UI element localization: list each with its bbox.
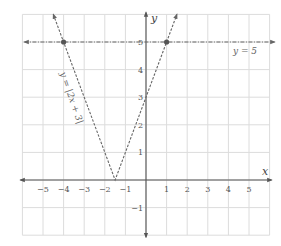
y-tick-label: 2 bbox=[138, 121, 143, 130]
x-tick-label: −3 bbox=[78, 185, 90, 194]
constant-equation-label: y = 5 bbox=[232, 46, 257, 56]
x-tick-label: −1 bbox=[120, 185, 132, 194]
y-tick-label: −1 bbox=[131, 204, 143, 213]
x-tick-label: −4 bbox=[58, 185, 70, 194]
x-tick-label: −2 bbox=[99, 185, 111, 194]
intersection-point bbox=[61, 39, 66, 44]
coordinate-plane: −5−4−3−2−11234554321−1 x y y = 5 y = |2x… bbox=[0, 0, 281, 246]
x-tick-label: 2 bbox=[185, 185, 190, 194]
x-tick-label: 3 bbox=[205, 185, 210, 194]
y-tick-label: 4 bbox=[138, 66, 143, 75]
x-tick-label: 4 bbox=[226, 185, 231, 194]
y-tick-label: 1 bbox=[138, 148, 143, 157]
x-tick-label: 1 bbox=[164, 185, 169, 194]
x-axis-label: x bbox=[262, 165, 269, 178]
intersection-point bbox=[164, 39, 169, 44]
y-tick-label: 3 bbox=[138, 93, 143, 102]
x-tick-label: 5 bbox=[246, 185, 251, 194]
x-tick-label: −5 bbox=[37, 185, 49, 194]
y-axis-label: y bbox=[150, 12, 158, 25]
